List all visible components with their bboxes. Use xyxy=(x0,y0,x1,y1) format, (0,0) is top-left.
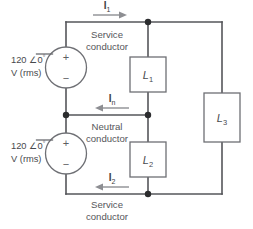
current-arrow-i2-head xyxy=(95,183,103,190)
lower-source-plus-sign: + xyxy=(63,137,69,149)
node-dot-neutral-right xyxy=(145,112,151,118)
lower-source-degree: ° xyxy=(43,140,46,147)
current-i1-subscript: 1 xyxy=(106,6,110,13)
current-arrow-in-head xyxy=(95,104,103,111)
current-label-i2: I2 xyxy=(109,172,116,185)
conductor-label-top-line2: conductor xyxy=(86,41,129,52)
upper-source-plus-sign: + xyxy=(63,51,69,63)
upper-source-minus-sign: − xyxy=(63,72,69,84)
upper-source-angle-symbol: ∠ xyxy=(29,55,37,65)
upper-source-degree: ° xyxy=(43,54,46,61)
current-label-in: In xyxy=(109,93,116,106)
conductor-label-middle-line2: conductor xyxy=(86,133,129,144)
node-dot-bottom-junction xyxy=(145,191,151,197)
circuit-schematic-canvas: + − + − 120∠0° V (rms) 120∠0° V (rms) L1… xyxy=(0,0,253,229)
node-dot-neutral-left xyxy=(63,112,69,118)
current-in-subscript: n xyxy=(111,99,115,106)
upper-source-magnitude-label: 120∠0° xyxy=(11,54,46,65)
load-l2-subscript: 2 xyxy=(149,160,153,169)
load-l1-subscript: 1 xyxy=(149,75,153,84)
lower-source-angle-symbol: ∠ xyxy=(29,141,37,151)
lower-source-magnitude: 120 xyxy=(11,141,27,151)
conductor-label-top-line1: Service xyxy=(91,29,123,40)
lower-source-minus-sign: − xyxy=(63,158,69,170)
current-arrow-i1-head xyxy=(119,11,127,18)
upper-source-unit-label: V (rms) xyxy=(11,68,41,78)
node-dot-top-junction xyxy=(145,19,151,25)
lower-source-unit-label: V (rms) xyxy=(11,154,41,164)
conductor-label-bottom-line2: conductor xyxy=(86,211,129,222)
lower-source-magnitude-label: 120∠0° xyxy=(11,140,46,151)
current-i2-subscript: 2 xyxy=(111,178,115,185)
current-label-i1: I1 xyxy=(104,0,111,13)
conductor-label-bottom-line1: Service xyxy=(91,199,123,210)
circuit-diagram: + − + − 120∠0° V (rms) 120∠0° V (rms) L1… xyxy=(0,0,253,229)
conductor-label-middle-line1: Neutral xyxy=(92,121,123,132)
load-l3-subscript: 3 xyxy=(223,118,227,127)
upper-source-magnitude: 120 xyxy=(11,55,27,65)
